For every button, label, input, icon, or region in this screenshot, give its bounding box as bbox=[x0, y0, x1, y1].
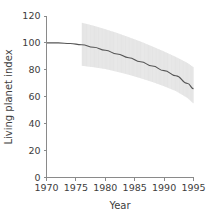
x-tick-label: 1995 bbox=[181, 182, 205, 193]
x-axis-title: Year bbox=[108, 200, 131, 211]
confidence-band bbox=[82, 23, 194, 104]
x-axis-ticks: 197019751980198519901995 bbox=[34, 178, 205, 193]
x-tick-label: 1980 bbox=[93, 182, 117, 193]
y-tick-label: 20 bbox=[28, 145, 40, 156]
y-tick-label: 80 bbox=[28, 64, 40, 75]
x-tick-label: 1975 bbox=[64, 182, 88, 193]
y-tick-label: 60 bbox=[28, 91, 40, 102]
y-tick-label: 40 bbox=[28, 118, 40, 129]
y-axis-ticks: 020406080100120 bbox=[22, 10, 46, 183]
x-tick-label: 1985 bbox=[123, 182, 147, 193]
y-tick-label: 120 bbox=[22, 10, 40, 21]
x-tick-label: 1970 bbox=[34, 182, 58, 193]
y-axis-title: Living planet index bbox=[3, 49, 14, 144]
chart-container: 020406080100120 197019751980198519901995… bbox=[0, 0, 209, 216]
x-tick-label: 1990 bbox=[152, 182, 176, 193]
line-chart-plot: 020406080100120 197019751980198519901995… bbox=[0, 0, 209, 216]
y-tick-label: 100 bbox=[22, 37, 40, 48]
